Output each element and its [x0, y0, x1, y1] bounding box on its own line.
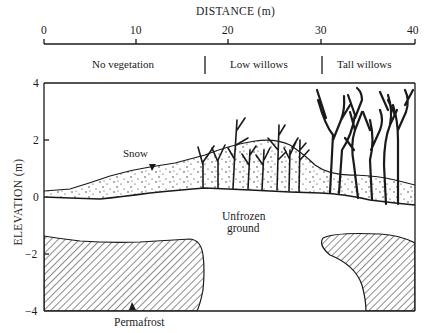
- zone-dividers: [205, 56, 322, 74]
- permafrost-label: Permafrost: [114, 316, 164, 328]
- ground-label: ground: [227, 222, 260, 234]
- snow-label: Snow: [123, 147, 148, 159]
- permafrost-right: [322, 234, 415, 312]
- x-axis: [44, 39, 415, 44]
- permafrost-left: [44, 236, 204, 311]
- unfrozen-label: Unfrozen: [222, 210, 265, 222]
- cross-section-diagram: [0, 0, 426, 333]
